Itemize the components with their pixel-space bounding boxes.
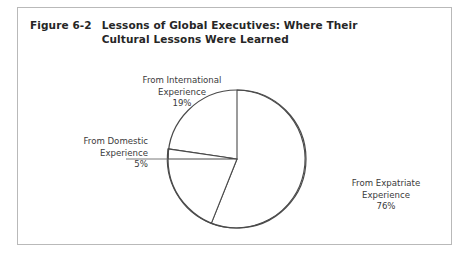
pie-label-expatriate-value: 76% [331,201,441,213]
pie-slice-domestic[interactable] [168,149,237,159]
pie-label-international-line2: Experience [130,87,234,99]
pie-label-domestic: From Domestic Experience 5% [54,136,148,171]
figure-frame: Figure 6-2 Lessons of Global Executives:… [17,7,452,245]
pie-label-international-value: 19% [130,98,234,110]
pie-label-expatriate: From Expatriate Experience 76% [331,178,441,213]
pie-label-expatriate-line2: Experience [331,190,441,202]
pie-label-expatriate-line1: From Expatriate [331,178,441,190]
pie-label-international-line1: From International [130,75,234,87]
pie-label-international: From International Experience 19% [130,75,234,110]
figure-root: Figure 6-2 Lessons of Global Executives:… [0,0,475,267]
pie-label-domestic-line1: From Domestic [54,136,148,148]
pie-chart: From International Experience 19% From D… [18,8,453,246]
pie-label-domestic-line2: Experience [54,148,148,160]
pie-label-domestic-value: 5% [54,159,148,171]
